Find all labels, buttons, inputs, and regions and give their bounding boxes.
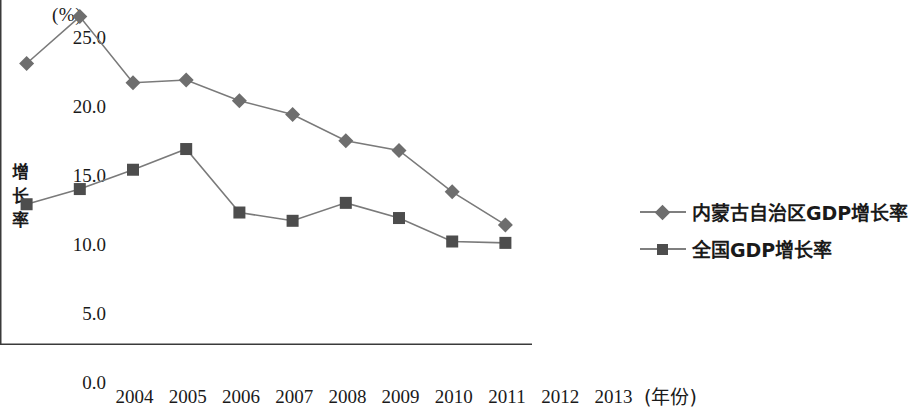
series-line — [27, 17, 506, 225]
legend-label: 内蒙古自治区GDP增长率 — [686, 198, 908, 225]
series-1 — [19, 9, 513, 232]
chart-canvas — [0, 0, 532, 345]
series-line — [27, 149, 506, 243]
data-point-marker — [285, 107, 300, 122]
data-point-marker — [499, 237, 511, 249]
data-point-marker — [340, 197, 352, 209]
plot-area — [0, 0, 532, 345]
x-axis-tick-labels: 2004200520062007200820092010201120122013 — [108, 386, 640, 412]
data-point-marker — [392, 143, 407, 158]
data-point-marker — [287, 215, 299, 227]
legend-marker-diamond-icon — [640, 203, 686, 221]
x-axis-tick-label: 2013 — [578, 386, 648, 408]
series-2 — [21, 143, 512, 249]
data-point-marker — [127, 164, 139, 176]
legend-item[interactable]: 内蒙古自治区GDP增长率 — [640, 193, 912, 230]
data-point-marker — [232, 93, 247, 108]
data-point-marker — [338, 133, 353, 148]
chart-legend: 内蒙古自治区GDP增长率全国GDP增长率 — [640, 193, 912, 267]
data-point-marker — [445, 184, 460, 199]
data-point-marker — [393, 212, 405, 224]
legend-label: 全国GDP增长率 — [686, 235, 832, 262]
data-point-marker — [180, 143, 192, 155]
legend-marker — [655, 204, 671, 220]
data-point-marker — [498, 217, 513, 232]
data-point-marker — [74, 183, 86, 195]
legend-item[interactable]: 全国GDP增长率 — [640, 230, 912, 267]
data-point-marker — [21, 198, 33, 210]
y-axis-tick-label: 0.0 — [46, 373, 106, 392]
gdp-growth-rate-line-chart: (%) 增长率 0.05.010.015.020.025.0 200420052… — [0, 0, 919, 412]
x-axis-title: (年份) — [644, 386, 697, 408]
data-point-marker — [233, 207, 245, 219]
data-point-marker — [179, 73, 194, 88]
data-point-marker — [446, 236, 458, 248]
legend-marker-square-icon — [640, 240, 686, 258]
data-point-marker — [126, 75, 141, 90]
legend-marker — [657, 244, 668, 255]
